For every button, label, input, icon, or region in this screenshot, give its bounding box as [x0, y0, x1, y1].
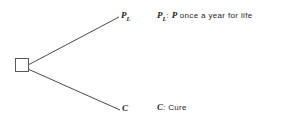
decision-tree-diagram: PL C PL: P once a year for life C: Cure — [0, 0, 281, 123]
branch-label-c: C — [122, 103, 128, 117]
branch-label-c-symbol: C — [122, 103, 128, 113]
legend-entry-pl: PL: P once a year for life — [157, 10, 253, 24]
branch-label-pl-subscript: L — [127, 15, 131, 22]
branch-upper-line — [29, 17, 119, 65]
legend-pl-value-text: once a year for life — [180, 11, 253, 20]
legend-c-separator: : — [163, 103, 166, 112]
legend-pl-separator: : — [166, 11, 169, 20]
legend-entry-c: C: Cure — [157, 102, 187, 116]
branch-lower-line — [29, 70, 120, 111]
decision-node-square[interactable] — [16, 59, 29, 72]
legend-pl-value-italic: P — [172, 10, 178, 20]
branch-label-pl: PL — [121, 10, 130, 24]
legend-c-value-text: Cure — [168, 103, 187, 112]
